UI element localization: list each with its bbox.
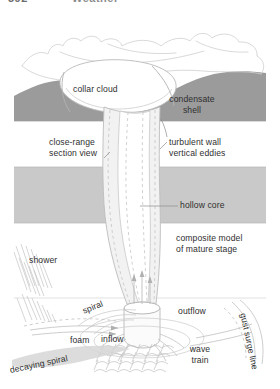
- label-outflow: outflow: [178, 306, 206, 317]
- label-hollow-core: hollow core: [180, 200, 225, 211]
- label-wave-train: wave train: [182, 344, 218, 366]
- label-condensate-shell: condensate shell: [160, 94, 224, 116]
- page-number: 592: [8, 0, 28, 4]
- label-close-range-section-view: close-range section view: [49, 137, 97, 159]
- label-composite-model-of-mature-stage: composite model of mature stage: [176, 233, 242, 255]
- diagram-canvas: [0, 8, 280, 389]
- label-turbulent-wall-vertical-eddies: turbulent wall vertical eddies: [169, 137, 225, 159]
- label-collar-cloud: collar cloud: [73, 84, 118, 95]
- label-inflow: inflow: [101, 334, 124, 345]
- label-shower: shower: [29, 255, 57, 266]
- section-title: Weather: [72, 0, 119, 4]
- label-foam: foam: [70, 335, 90, 346]
- weather-diagram-figure: collar cloud condensate shell close-rang…: [0, 8, 280, 389]
- debris-cylinder: [124, 302, 160, 348]
- page-running-head: 592 Weather: [0, 0, 280, 6]
